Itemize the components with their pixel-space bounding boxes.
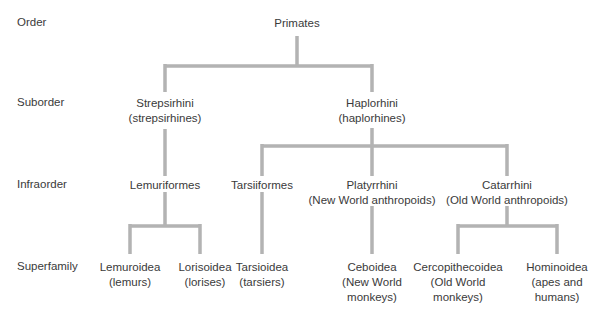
node-name: Haplorhini <box>338 96 405 111</box>
node-common-name: (Old World anthropoids) <box>446 193 568 208</box>
node-catarrhini: Catarrhini (Old World anthropoids) <box>446 178 568 208</box>
tree-connectors <box>0 0 601 312</box>
node-lemuroidea: Lemuroidea (lemurs) <box>100 260 161 290</box>
node-lorisoidea: Lorisoidea (lorises) <box>178 260 231 290</box>
node-name: Tarsioidea <box>236 260 288 275</box>
node-common-name: (tarsiers) <box>236 275 288 290</box>
node-tarsiiformes: Tarsiiformes <box>231 178 293 193</box>
node-name: Platyrrhini <box>309 178 436 193</box>
node-name: Hominoidea <box>526 260 587 275</box>
node-ceboidea: Ceboidea (New World monkeys) <box>342 260 402 305</box>
node-name: Lemuroidea <box>100 260 161 275</box>
level-superfamily: Superfamily <box>17 260 78 272</box>
node-name: Ceboidea <box>342 260 402 275</box>
node-common-name: monkeys) <box>413 290 503 305</box>
level-suborder: Suborder <box>17 96 64 108</box>
node-name: Strepsirhini <box>129 96 202 111</box>
node-primates: Primates <box>274 16 319 31</box>
level-infraorder: Infraorder <box>17 178 67 190</box>
node-common-name: monkeys) <box>342 290 402 305</box>
node-name: Primates <box>274 16 319 31</box>
level-order: Order <box>17 16 46 28</box>
node-common-name: (lorises) <box>178 275 231 290</box>
node-common-name: (strepsirhines) <box>129 111 202 126</box>
node-common-name: (New World <box>342 275 402 290</box>
node-tarsioidea: Tarsioidea (tarsiers) <box>236 260 288 290</box>
node-common-name: humans) <box>526 290 587 305</box>
node-name: Catarrhini <box>446 178 568 193</box>
node-lemuriformes: Lemuriformes <box>130 178 200 193</box>
node-common-name: (New World anthropoids) <box>309 193 436 208</box>
node-strepsirhini: Strepsirhini (strepsirhines) <box>129 96 202 126</box>
node-name: Cercopithecoidea <box>413 260 503 275</box>
node-common-name: (apes and <box>526 275 587 290</box>
node-hominoidea: Hominoidea (apes and humans) <box>526 260 587 305</box>
node-name: Lorisoidea <box>178 260 231 275</box>
node-platyrrhini: Platyrrhini (New World anthropoids) <box>309 178 436 208</box>
node-cercopithecoidea: Cercopithecoidea (Old World monkeys) <box>413 260 503 305</box>
node-haplorhini: Haplorhini (haplorhines) <box>338 96 405 126</box>
node-common-name: (haplorhines) <box>338 111 405 126</box>
node-common-name: (Old World <box>413 275 503 290</box>
node-name: Lemuriformes <box>130 178 200 193</box>
node-name: Tarsiiformes <box>231 178 293 193</box>
node-common-name: (lemurs) <box>100 275 161 290</box>
